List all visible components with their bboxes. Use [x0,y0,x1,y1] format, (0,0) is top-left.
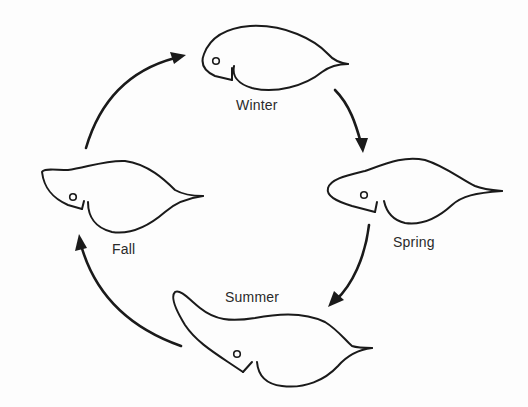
summer-fish-eye-icon [234,351,241,358]
spring-fish-upper-outline [328,159,502,212]
winter-fish-upper-outline [202,26,348,80]
spring-label: Spring [393,234,435,250]
fall-fish-icon [42,161,203,233]
winter-fish-icon [202,26,348,90]
spring-fish-eye-icon [361,192,368,199]
arrow-fall-to-winter-icon [86,52,186,148]
fall-label: Fall [112,241,135,257]
arrow-spring-to-summer-icon [328,225,369,307]
spring-fish-lower-outline [384,191,502,224]
summer-fish-notch [243,362,252,372]
fall-fish-notch [82,201,84,209]
seasonal-cycle-diagram: Winter Spring Summer Fall [0,0,528,407]
spring-fish-notch [375,202,377,212]
arrow-winter-to-spring-icon [335,90,368,153]
winter-fish-lower-outline [234,64,348,90]
summer-fish-lower-outline [257,348,372,387]
winter-label: Winter [236,97,278,113]
diagram-svg [0,0,528,407]
spring-fish-icon [328,159,502,224]
winter-fish-eye-icon [213,58,220,65]
fall-fish-eye-icon [70,194,77,201]
summer-fish-icon [173,291,372,386]
summer-label: Summer [225,289,279,305]
fall-fish-lower-outline [88,196,203,233]
